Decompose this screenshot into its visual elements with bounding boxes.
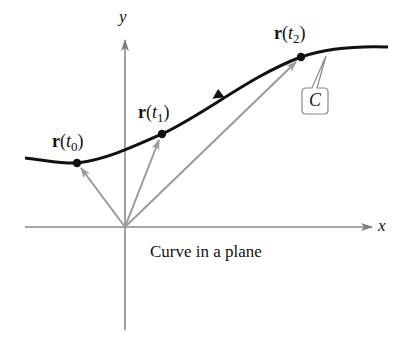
y-axis-label: y (119, 7, 127, 27)
direction-arrow-icon (211, 88, 224, 99)
vector-r-t0 (81, 168, 125, 227)
point-t1 (158, 130, 166, 138)
x-axis-label: x (378, 216, 386, 236)
label-r-t2: r(t2) (274, 23, 306, 47)
label-r-t0: r(t0) (52, 131, 84, 155)
point-t0 (73, 159, 81, 167)
curve-label-c: C (309, 90, 321, 111)
diagram-graphics (0, 0, 410, 344)
label-r-t1: r(t1) (138, 102, 170, 126)
point-t2 (297, 53, 305, 61)
vector-r-t1 (125, 140, 159, 227)
figure-caption: Curve in a plane (150, 242, 262, 262)
vector-r-t2 (125, 62, 296, 227)
curve-in-plane-diagram: y x r(t0) r(t1) r(t2) C Curve in a plane (0, 0, 410, 344)
